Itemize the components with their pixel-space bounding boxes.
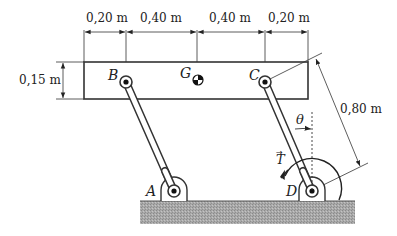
dim-label-3: 0,40 m xyxy=(209,11,252,25)
label-b: B xyxy=(107,67,118,83)
theta-arc xyxy=(295,128,311,129)
ground xyxy=(140,201,355,224)
label-g: G xyxy=(180,65,191,81)
label-c: C xyxy=(249,67,260,83)
mechanism-diagram: 0,20 m 0,40 m 0,40 m 0,20 m 0,15 m 0,80 … xyxy=(0,0,397,236)
beam-height-label: 0,15 m xyxy=(19,73,62,87)
pin-a xyxy=(168,185,180,197)
theta-label: θ xyxy=(296,112,304,127)
label-a: A xyxy=(144,183,156,199)
link-length-label: 0,80 m xyxy=(340,102,383,116)
pin-b xyxy=(120,76,132,88)
pin-d xyxy=(306,185,318,197)
pin-c xyxy=(259,76,271,88)
center-of-gravity-icon xyxy=(193,75,203,85)
dim-label-4: 0,20 m xyxy=(268,11,311,25)
dim-label-1: 0,20 m xyxy=(86,11,129,25)
torque-vector-mark: → xyxy=(276,148,283,157)
label-d: D xyxy=(285,183,297,199)
dim-label-2: 0,40 m xyxy=(140,11,183,25)
